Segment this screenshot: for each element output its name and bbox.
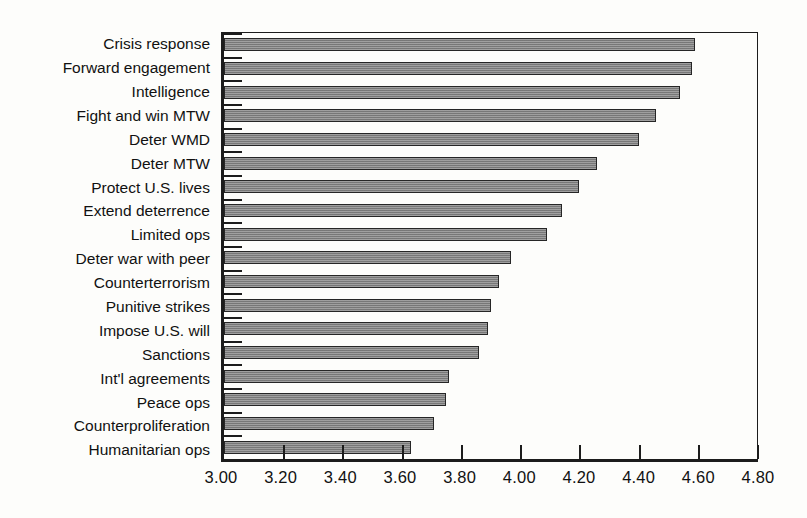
- value-tick-label: 4.00: [503, 468, 536, 487]
- bar: [224, 417, 434, 430]
- category-tick-mark: [224, 293, 242, 295]
- bar-row: [224, 128, 757, 152]
- value-tick-mark: [461, 445, 463, 459]
- category-label: Impose U.S. will: [0, 319, 216, 343]
- bar: [224, 393, 446, 406]
- category-label: Punitive strikes: [0, 295, 216, 319]
- bar-row: [224, 33, 757, 57]
- value-tick-label: 4.40: [622, 468, 655, 487]
- bar: [224, 204, 562, 217]
- category-label: Counterproliferation: [0, 414, 216, 438]
- value-tick-mark: [520, 445, 522, 459]
- value-tick-label: 3.60: [384, 468, 417, 487]
- bar: [224, 133, 639, 146]
- category-label: Deter MTW: [0, 151, 216, 175]
- value-tick-label: 3.20: [264, 468, 297, 487]
- value-tick-label: 3.00: [205, 468, 238, 487]
- value-tick-label: 4.80: [742, 468, 775, 487]
- bar-series: [224, 33, 757, 459]
- category-label: Peace ops: [0, 390, 216, 414]
- value-tick-mark: [698, 445, 700, 459]
- value-tick-label: 4.20: [563, 468, 596, 487]
- category-label: Humanitarian ops: [0, 438, 216, 462]
- category-label: Int'l agreements: [0, 366, 216, 390]
- bar-row: [224, 317, 757, 341]
- category-label: Extend deterrence: [0, 199, 216, 223]
- bar-row: [224, 57, 757, 81]
- bar: [224, 251, 511, 264]
- category-tick-mark: [224, 435, 242, 437]
- bar-row: [224, 104, 757, 128]
- bar-row: [224, 341, 757, 365]
- category-label: Crisis response: [0, 32, 216, 56]
- bar-row: [224, 175, 757, 199]
- bar-row: [224, 222, 757, 246]
- category-tick-mark: [224, 33, 242, 35]
- bar: [224, 299, 491, 312]
- category-label: Sanctions: [0, 343, 216, 367]
- bar: [224, 38, 695, 51]
- value-tick-mark: [283, 445, 285, 459]
- value-tick-label: 3.80: [443, 468, 476, 487]
- bar-row: [224, 293, 757, 317]
- category-label: Limited ops: [0, 223, 216, 247]
- value-tick-mark: [342, 445, 344, 459]
- category-tick-mark: [224, 246, 242, 248]
- bar: [224, 370, 449, 383]
- bar-row: [224, 412, 757, 436]
- value-tick-mark: [757, 445, 759, 459]
- value-tick-mark: [402, 445, 404, 459]
- bar: [224, 228, 547, 241]
- bar-row: [224, 151, 757, 175]
- bar: [224, 180, 579, 193]
- horizontal-bar-chart: Crisis responseForward engagementIntelli…: [0, 0, 807, 518]
- category-tick-mark: [224, 128, 242, 130]
- category-label: Fight and win MTW: [0, 104, 216, 128]
- bar-row: [224, 246, 757, 270]
- bar: [224, 62, 692, 75]
- category-label: Counterterrorism: [0, 271, 216, 295]
- bar: [224, 157, 597, 170]
- plot-area: [221, 32, 758, 462]
- category-label: Deter war with peer: [0, 247, 216, 271]
- category-tick-mark: [224, 199, 242, 201]
- category-tick-mark: [224, 317, 242, 319]
- bar: [224, 109, 656, 122]
- bar-row: [224, 80, 757, 104]
- category-tick-mark: [224, 412, 242, 414]
- category-tick-mark: [224, 270, 242, 272]
- category-label: Forward engagement: [0, 56, 216, 80]
- bar: [224, 322, 488, 335]
- bar: [224, 441, 411, 454]
- category-tick-mark: [224, 57, 242, 59]
- bar: [224, 86, 680, 99]
- value-axis-labels: 3.003.203.403.603.804.004.204.404.604.80: [221, 468, 758, 498]
- category-tick-mark: [224, 364, 242, 366]
- category-label: Protect U.S. lives: [0, 175, 216, 199]
- bar-row: [224, 388, 757, 412]
- category-tick-mark: [224, 222, 242, 224]
- category-tick-mark: [224, 151, 242, 153]
- category-tick-mark: [224, 104, 242, 106]
- bar-row: [224, 270, 757, 294]
- category-axis-labels: Crisis responseForward engagementIntelli…: [0, 32, 216, 462]
- category-label: Deter WMD: [0, 128, 216, 152]
- value-tick-mark: [579, 445, 581, 459]
- bar-row: [224, 364, 757, 388]
- category-tick-mark: [224, 341, 242, 343]
- value-tick-label: 3.40: [324, 468, 357, 487]
- value-tick-mark: [639, 445, 641, 459]
- category-tick-mark: [224, 388, 242, 390]
- bar-row: [224, 199, 757, 223]
- bar: [224, 346, 479, 359]
- category-tick-mark: [224, 175, 242, 177]
- bar: [224, 275, 499, 288]
- category-label: Intelligence: [0, 80, 216, 104]
- bar-row: [224, 435, 757, 459]
- value-tick-label: 4.60: [682, 468, 715, 487]
- category-tick-mark: [224, 80, 242, 82]
